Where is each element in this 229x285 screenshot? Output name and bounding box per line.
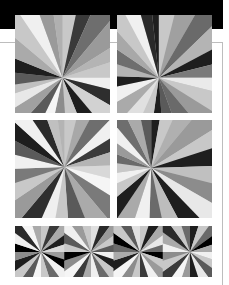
- sunburst-top-left-graphic: [15, 15, 110, 113]
- sunburst-top-right: [117, 15, 212, 113]
- sunburst-top-left: [15, 15, 110, 113]
- sunburst-middle-left-graphic: [15, 120, 110, 218]
- vertical-rule: [222, 42, 223, 285]
- sunburst-strip: [15, 226, 212, 277]
- sunburst-top-right-graphic: [117, 15, 212, 113]
- sunburst-middle-right: [117, 120, 212, 218]
- sunburst-middle-left: [15, 120, 110, 218]
- sunburst-strip-graphic: [15, 226, 212, 277]
- sunburst-middle-right-graphic: [117, 120, 212, 218]
